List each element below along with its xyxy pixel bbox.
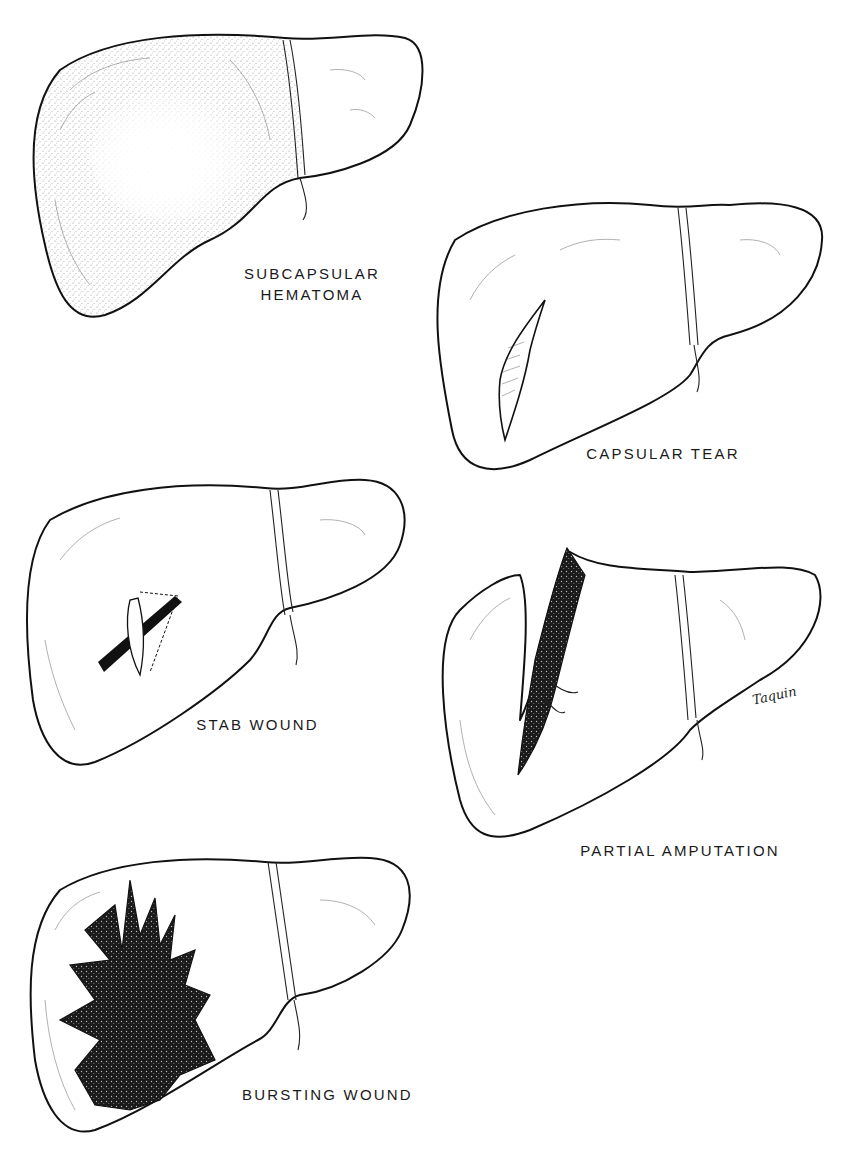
panel-bursting-wound: BURSTING WOUND	[0, 0, 842, 1150]
label-bursting-wound: BURSTING WOUND	[225, 1084, 430, 1105]
liver-bursting-wound-illustration	[0, 0, 842, 1150]
